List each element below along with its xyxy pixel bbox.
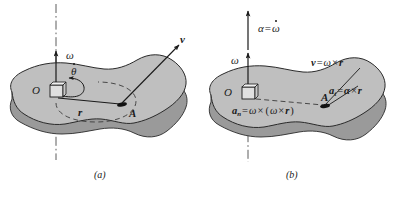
theta-symbol-a: θ (71, 65, 76, 77)
theta-dot-label-a: θ (71, 66, 76, 77)
omega-label-b: ω (231, 55, 239, 66)
panel-b-graphics (201, 0, 402, 203)
omega-symbol-dotted-b: ω (272, 22, 280, 34)
omega-label-a: ω (66, 50, 74, 61)
panel-a: ω O θ r A v (a) (0, 0, 201, 203)
v-label-a: v (180, 34, 185, 45)
point-a-label-a: A (129, 108, 136, 119)
origin-label-a: O (32, 85, 40, 96)
caption-a: (a) (94, 170, 106, 180)
v-omega-b: ω (324, 57, 331, 68)
pivot-block-a (50, 82, 66, 97)
rotation-kinematics-figure: ω O θ r A v (a) (0, 0, 402, 203)
an-equation-b: an=ω×(ω×r) (232, 106, 295, 117)
equals-sign-alpha-b: = (264, 22, 272, 34)
point-a-label-b: A (321, 92, 328, 103)
theta-dot-accent-a (73, 63, 75, 65)
caption-b: (b) (286, 170, 298, 180)
v-equation-b: v=ω×r (311, 58, 343, 69)
r-label-a: r (78, 107, 82, 118)
at-r-b: r (358, 85, 362, 96)
origin-label-b: O (224, 87, 232, 98)
alpha-equals-omega-dot-label-b: α=ω (258, 23, 280, 34)
panel-b: α=ω ω O A v=ω×r at=α×r an=ω×(ω×r) (b) (201, 0, 402, 203)
v-symbol-b: v (311, 57, 316, 68)
v-r-b: r (339, 57, 343, 68)
an-close-paren-b: ) (289, 105, 295, 116)
at-equation-b: at=α×r (329, 86, 362, 97)
v-equals-b: = (316, 57, 324, 68)
an-equals-b: = (241, 105, 249, 116)
alpha-symbol-b: α (258, 22, 264, 34)
omega-dot-accent-b (275, 20, 277, 22)
at-cross-b: × (350, 85, 358, 96)
at-equals-b: = (336, 85, 344, 96)
pivot-block-b (242, 84, 258, 99)
v-cross-b: × (331, 57, 339, 68)
